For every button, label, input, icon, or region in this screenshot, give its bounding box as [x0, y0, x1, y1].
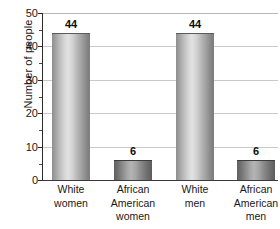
y-tick-20	[38, 113, 42, 114]
y-tick-45	[39, 30, 42, 31]
x-label-white-men-line-2: men	[162, 197, 228, 211]
y-tick-label-30: 30	[14, 75, 38, 86]
y-tick-50	[38, 13, 42, 14]
y-axis-line	[42, 13, 43, 181]
gridline-50	[42, 13, 278, 14]
y-tick-label-50: 50	[14, 8, 38, 19]
x-label-white-women-line-2: women	[38, 197, 104, 211]
y-tick-0	[38, 180, 42, 181]
x-label-african-american-men-line-1: African	[223, 183, 280, 197]
bar-chart: Number of people 50 40 30 20 10 0	[0, 0, 280, 229]
y-tick-30	[38, 80, 42, 81]
y-tick-label-0: 0	[14, 175, 38, 186]
x-label-african-american-men-line-3: men	[223, 210, 280, 224]
axis-baseline	[42, 180, 278, 181]
bar-value-white-men: 44	[176, 19, 214, 30]
y-tick-label-20: 20	[14, 108, 38, 119]
y-tick-40	[38, 46, 42, 47]
y-tick-label-10: 10	[14, 142, 38, 153]
x-label-white-women-line-1: White	[38, 183, 104, 197]
bar-white-women	[52, 33, 90, 180]
y-tick-5	[39, 164, 42, 165]
bar-african-american-women	[114, 160, 152, 180]
x-label-white-men: White men	[162, 183, 228, 210]
y-axis-tick-labels: 50 40 30 20 10 0	[14, 0, 38, 229]
x-label-african-american-women-line-2: American	[100, 197, 166, 211]
x-label-african-american-women-line-3: women	[100, 210, 166, 224]
bar-african-american-men	[237, 160, 275, 180]
y-tick-label-40: 40	[14, 41, 38, 52]
x-label-white-men-line-1: White	[162, 183, 228, 197]
bar-value-african-american-men: 6	[237, 146, 275, 157]
y-tick-15	[39, 130, 42, 131]
x-label-african-american-women: African American women	[100, 183, 166, 224]
bar-white-men	[176, 33, 214, 180]
x-label-african-american-men-line-2: American	[223, 197, 280, 211]
bar-value-african-american-women: 6	[114, 146, 152, 157]
y-tick-10	[38, 147, 42, 148]
x-label-white-women: White women	[38, 183, 104, 210]
bar-value-white-women: 44	[52, 19, 90, 30]
x-label-african-american-men: African American men	[223, 183, 280, 224]
y-tick-25	[39, 97, 42, 98]
y-tick-35	[39, 63, 42, 64]
x-axis-labels: White women African American women White…	[42, 183, 278, 229]
plot-area: 44 6 44 6	[42, 13, 278, 180]
x-label-african-american-women-line-1: African	[100, 183, 166, 197]
